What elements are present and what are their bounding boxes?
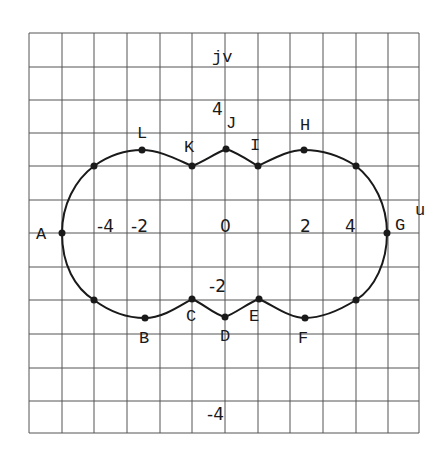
label-e: E [249, 307, 259, 326]
v-tick-neg4: -4 [207, 404, 224, 424]
label-h: H [300, 116, 310, 135]
point-b [142, 315, 149, 322]
u-tick-neg2: -2 [131, 216, 148, 236]
label-k: K [184, 138, 195, 157]
label-c: C [186, 307, 196, 326]
u-tick-2: 2 [300, 216, 311, 236]
point-a [59, 230, 66, 237]
point-j [223, 146, 230, 153]
u-tick-0: 0 [220, 216, 231, 236]
u-axis-label: u [415, 201, 425, 220]
label-j: J [226, 114, 236, 133]
contour-diagram: jv u -4 -2 0 2 4 4 -2 -4 A B C D E F G H… [0, 0, 442, 456]
label-a: A [36, 225, 47, 244]
point-h [301, 147, 308, 154]
point-e [256, 296, 263, 303]
point-g [384, 230, 391, 237]
point-k [189, 163, 196, 170]
point-unlabeled [91, 163, 98, 170]
label-l: L [137, 124, 147, 143]
point-f [302, 315, 309, 322]
label-f: F [298, 329, 308, 348]
point-unlabeled [353, 297, 360, 304]
label-b: B [139, 329, 149, 348]
v-tick-4: 4 [212, 99, 223, 119]
point-unlabeled [91, 297, 98, 304]
point-l [139, 147, 146, 154]
v-tick-neg2: -2 [209, 276, 226, 296]
point-unlabeled [353, 163, 360, 170]
v-axis-label: jv [212, 48, 232, 67]
u-tick-4: 4 [345, 216, 356, 236]
point-i [255, 163, 262, 170]
label-i: I [250, 136, 260, 155]
label-d: D [220, 327, 230, 346]
label-g: G [395, 216, 405, 235]
point-d [222, 314, 229, 321]
point-c [189, 296, 196, 303]
u-tick-neg4: -4 [97, 216, 114, 236]
